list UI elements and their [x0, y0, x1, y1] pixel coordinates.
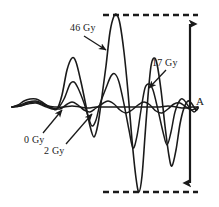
arrow-0gy	[43, 110, 62, 133]
arrow-17gy	[149, 70, 166, 88]
label-17gy: 17 Gy	[152, 57, 178, 68]
figure-container: 46 Gy 17 Gy 0 Gy 2 Gy A	[0, 0, 219, 207]
arrow-46gy	[84, 36, 106, 50]
label-2gy: 2 Gy	[44, 145, 65, 156]
arrow-2gy	[66, 114, 92, 144]
trace-46-gy	[12, 14, 198, 192]
amplitude-dashed-lines	[103, 15, 198, 192]
label-0gy: 0 Gy	[24, 134, 45, 145]
trace-group	[12, 14, 198, 192]
waveform-plot	[0, 0, 219, 207]
label-amplitude: A	[196, 95, 204, 107]
label-46gy: 46 Gy	[70, 22, 96, 33]
